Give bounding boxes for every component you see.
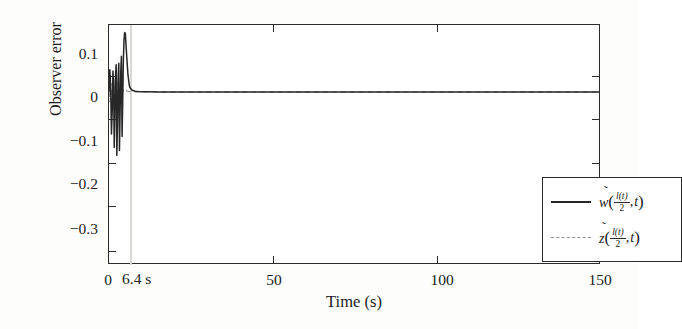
x-tick-label-2: 100 bbox=[412, 272, 472, 288]
legend-symbol-w: w bbox=[599, 195, 608, 210]
legend-fraction-denominator-w: 2 bbox=[614, 202, 630, 213]
legend-paren-close-w: ) bbox=[638, 192, 644, 212]
legend-line-dashed-icon bbox=[551, 232, 591, 244]
legend-label-z-tilde: ̃ z ( l(t) 2 , t ) bbox=[599, 227, 640, 249]
legend-fraction-numerator-w: l(t) bbox=[615, 191, 629, 201]
x-tick-label-3: 150 bbox=[570, 272, 630, 288]
series-w-tilde-path bbox=[109, 32, 599, 155]
y-tick-label-1: 0 bbox=[40, 89, 98, 105]
legend-label-w-tilde: ̃ w ( l(t) 2 , t ) bbox=[599, 191, 644, 213]
plot-area: ̃ w ( l(t) 2 , t ) ̃ bbox=[108, 24, 600, 264]
x-tick-label-1: 50 bbox=[248, 272, 300, 288]
y-tick-label-2: −0.1 bbox=[40, 133, 98, 149]
legend-line-solid-icon bbox=[551, 196, 591, 208]
x-tick-label-0: 0 bbox=[94, 272, 122, 288]
legend-paren-close-z: ) bbox=[634, 228, 640, 248]
settling-time-annotation: 6.4 s bbox=[122, 271, 178, 287]
chart-curves bbox=[109, 25, 599, 263]
legend-entry-z-tilde: ̃ z ( l(t) 2 , t ) bbox=[551, 220, 674, 256]
y-tick-label-3: −0.2 bbox=[40, 176, 98, 192]
legend-entry-w-tilde: ̃ w ( l(t) 2 , t ) bbox=[551, 184, 674, 220]
legend-fraction-z: l(t) 2 bbox=[611, 227, 625, 249]
legend-fraction-w: l(t) 2 bbox=[615, 191, 629, 213]
series-z-tilde-path bbox=[109, 78, 599, 109]
legend-fraction-numerator-z: l(t) bbox=[611, 227, 625, 237]
legend-symbol-z: z bbox=[599, 231, 604, 246]
y-tick-label-4: −0.3 bbox=[40, 221, 98, 237]
y-tick-label-0: 0.1 bbox=[40, 46, 98, 62]
legend-fraction-denominator-z: 2 bbox=[610, 238, 626, 249]
x-axis-title: Time (s) bbox=[108, 292, 600, 312]
legend-box: ̃ w ( l(t) 2 , t ) ̃ bbox=[542, 177, 682, 262]
